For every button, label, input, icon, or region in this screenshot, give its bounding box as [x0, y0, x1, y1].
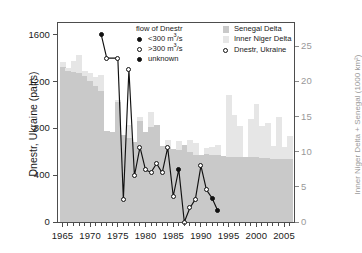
x-tick-minor — [73, 223, 74, 226]
x-tick-minor — [289, 223, 290, 226]
x-tick-minor — [151, 223, 152, 226]
x-tick-label: 2005 — [264, 230, 304, 241]
legend-label: Inner Niger Delta — [234, 34, 291, 44]
y-tick — [53, 175, 57, 176]
y-tick — [53, 128, 57, 129]
x-tick-minor — [206, 223, 207, 226]
x-tick-minor — [267, 223, 268, 226]
x-tick-major — [228, 223, 229, 227]
x-tick-minor — [106, 223, 107, 226]
y2-tick — [295, 151, 299, 152]
x-tick-minor — [123, 223, 124, 226]
y-tick — [53, 222, 57, 223]
legend-label: Senegal Delta — [234, 24, 282, 34]
legend-label: <300 m3/s — [148, 34, 183, 44]
x-tick-major — [62, 223, 63, 227]
y2-tick — [295, 81, 299, 82]
x-tick-minor — [178, 223, 179, 226]
y-tick-label: 400 — [0, 169, 50, 180]
x-tick-major — [256, 223, 257, 227]
x-tick-minor — [79, 223, 80, 226]
x-tick-minor — [217, 223, 218, 226]
x-tick-minor — [156, 223, 157, 226]
x-tick-major — [173, 223, 174, 227]
x-tick-minor — [134, 223, 135, 226]
y2-tick-label: 5 — [301, 181, 306, 192]
legend-open-circle-icon — [137, 47, 142, 52]
legend-senegal-swatch-icon — [223, 26, 229, 33]
y2-tick-label: 20 — [301, 75, 312, 86]
x-tick-minor — [189, 223, 190, 226]
legend-filled-circle-icon — [137, 37, 142, 42]
legend-filled-circle-icon — [137, 57, 142, 62]
x-tick-minor — [101, 223, 102, 226]
legend-open-circle-icon — [223, 48, 228, 53]
y2-tick-label: 0 — [301, 216, 306, 227]
x-tick-minor — [167, 223, 168, 226]
legend-niger-swatch-icon — [223, 36, 229, 43]
x-tick-minor — [239, 223, 240, 226]
x-tick-major — [200, 223, 201, 227]
x-tick-minor — [250, 223, 251, 226]
x-tick-minor — [195, 223, 196, 226]
x-tick-minor — [67, 223, 68, 226]
x-tick-minor — [184, 223, 185, 226]
x-tick-major — [284, 223, 285, 227]
y2-tick — [295, 46, 299, 47]
x-tick-minor — [223, 223, 224, 226]
x-tick-minor — [128, 223, 129, 226]
y2-tick-label: 10 — [301, 146, 312, 157]
x-tick-minor — [95, 223, 96, 226]
x-tick-minor — [139, 223, 140, 226]
y-tick-label: 800 — [0, 122, 50, 133]
x-tick-minor — [278, 223, 279, 226]
y2-tick-label: 25 — [301, 40, 312, 51]
y-tick — [53, 34, 57, 35]
x-tick-major — [117, 223, 118, 227]
y-tick-label: 1600 — [0, 29, 50, 40]
legend-label: unknown — [148, 54, 178, 64]
legend-label: Dnestr, Ukraine — [234, 45, 286, 55]
x-tick-major — [145, 223, 146, 227]
x-tick-minor — [112, 223, 113, 226]
y2-tick — [295, 116, 299, 117]
x-tick-minor — [272, 223, 273, 226]
x-tick-major — [90, 223, 91, 227]
x-tick-minor — [212, 223, 213, 226]
y-tick-label: 0 — [0, 216, 50, 227]
x-tick-minor — [261, 223, 262, 226]
y-tick-label: 1200 — [0, 76, 50, 87]
y2-tick-label: 15 — [301, 111, 312, 122]
y2-tick — [295, 186, 299, 187]
y-tick — [53, 81, 57, 82]
legend-label: >300 m3/s — [148, 44, 183, 54]
y2-tick — [295, 222, 299, 223]
x-tick-minor — [162, 223, 163, 226]
x-tick-minor — [245, 223, 246, 226]
x-tick-minor — [234, 223, 235, 226]
x-tick-minor — [84, 223, 85, 226]
